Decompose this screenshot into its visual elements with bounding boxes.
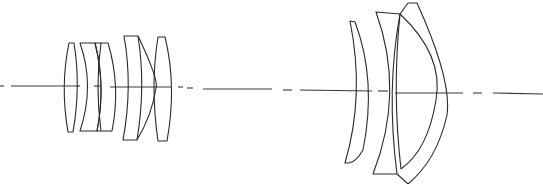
lens-element-1 [64,43,77,132]
optical-axis [0,86,543,94]
lens-diagram [0,0,543,184]
lens-element-4 [123,36,142,140]
lens-element-6 [154,37,172,141]
lens-element-10 [396,14,401,169]
front-lens-group [64,36,171,141]
lens-element-7 [345,21,368,163]
lens-diagram-svg [0,0,543,184]
